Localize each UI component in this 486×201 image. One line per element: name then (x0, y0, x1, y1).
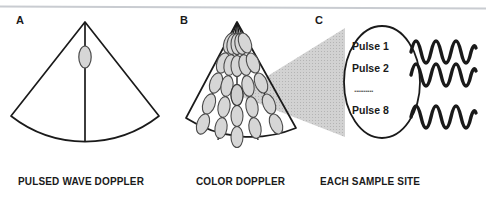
caption-each-sample-site: EACH SAMPLE SITE (320, 176, 420, 187)
caption-color-doppler: COLOR DOPPLER (196, 176, 285, 187)
panel-b-sector (186, 22, 345, 148)
panel-letter-b: B (180, 14, 188, 26)
sample-gate-a (79, 46, 91, 68)
pulse-label-1: Pulse 1 (352, 40, 389, 52)
panel-a-sector (11, 22, 159, 142)
pulse-ellipsis: .......... (354, 84, 373, 94)
panel-letter-a: A (16, 14, 24, 26)
caption-pulsed-wave-doppler: PULSED WAVE DOPPLER (18, 176, 144, 187)
panel-letter-c: C (315, 14, 323, 26)
pulse-label-2: Pulse 2 (352, 62, 389, 74)
waveform-1 (411, 41, 476, 63)
top-divider-rule (0, 7, 486, 9)
selected-sample-gate (231, 85, 243, 106)
figure-canvas (0, 0, 486, 201)
doppler-figure: A B C Pulse 1 Pulse 2 .......... Pulse 8… (0, 0, 486, 201)
waveform-3 (411, 106, 476, 128)
pulse-label-8: Pulse 8 (352, 104, 389, 116)
